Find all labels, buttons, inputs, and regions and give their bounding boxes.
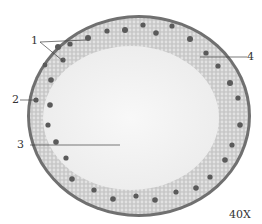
magnification-label: 40X xyxy=(229,208,251,221)
pith-region xyxy=(43,46,219,190)
micrograph-figure: 1 2 3 4 40X xyxy=(0,0,262,224)
stem-cross-section-illustration xyxy=(0,0,262,224)
label-2: 2 xyxy=(12,94,19,105)
label-4: 4 xyxy=(247,51,254,62)
label-3: 3 xyxy=(17,139,24,150)
label-1: 1 xyxy=(31,35,38,46)
